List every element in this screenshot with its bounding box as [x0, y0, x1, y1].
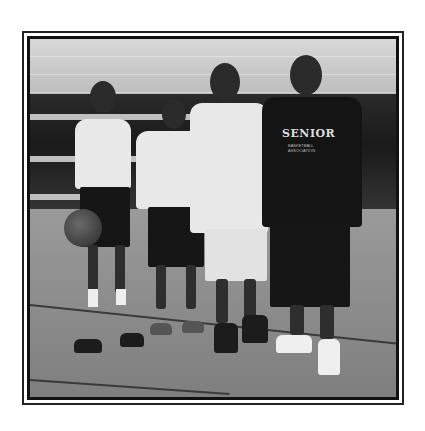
shirt-logo-text: SENIOR	[282, 127, 335, 140]
gym-photo: SENIOR BASKETBALL ASSOCIATION	[30, 39, 396, 397]
photo-frame: SENIOR BASKETBALL ASSOCIATION	[22, 31, 404, 405]
shirt-sub-text: BASKETBALL ASSOCIATION	[288, 143, 315, 153]
basketball	[64, 209, 102, 247]
photo-frame-inner: SENIOR BASKETBALL ASSOCIATION	[27, 36, 399, 400]
